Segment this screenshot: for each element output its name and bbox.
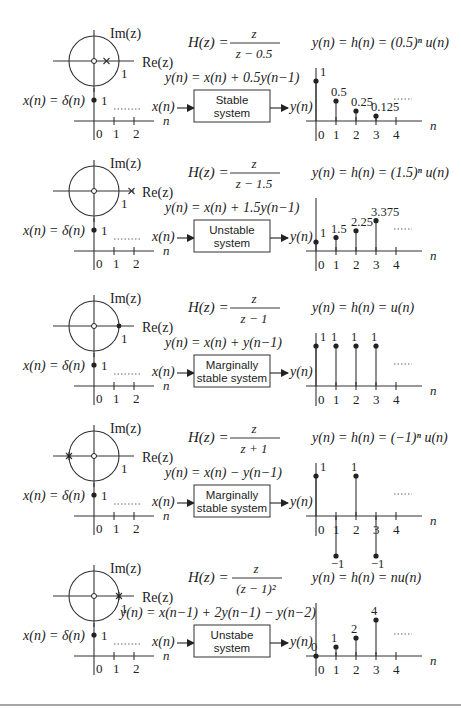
transfer-lhs: H(z) =: [187, 34, 229, 51]
pole-marker-icon: [117, 324, 122, 329]
stem-value-label: 0.5: [331, 85, 347, 99]
response-tick-label: 4: [393, 522, 400, 537]
stem-value-label: 1: [331, 330, 337, 344]
response-title: y(n) = h(n) = (1.5)ⁿ u(n): [310, 165, 449, 181]
stem-value-label: 1: [320, 226, 326, 240]
impulse-dot: [91, 632, 96, 637]
impulse-value-label: 1: [101, 358, 108, 373]
stem-dot: [353, 228, 358, 233]
transfer-numerator: z: [250, 291, 256, 306]
input-tick-label: 2: [133, 126, 140, 141]
input-impulse-plot: x(n) = δ(n)1n012: [22, 483, 170, 536]
impulse-dot: [91, 227, 96, 232]
input-impulse-plot: x(n) = δ(n)1n012: [22, 623, 170, 676]
transfer-function: H(z) =zz + 1: [187, 421, 280, 456]
im-axis-label: Im(z): [110, 561, 141, 577]
stem-value-label: 0.125: [371, 100, 399, 114]
stem-value-label: 3.375: [371, 205, 399, 219]
response-tick-label: 3: [373, 392, 380, 407]
unit-label: 1: [121, 331, 128, 346]
input-tick-label: 1: [113, 661, 120, 676]
re-axis-label: Re(z): [142, 185, 173, 201]
pole-zero-plot: Im(z)Re(z)1: [53, 156, 173, 222]
output-signal-label: y(n): [288, 364, 313, 380]
response-tick-label: 4: [393, 392, 400, 407]
stem-value-label: −1: [371, 557, 384, 571]
stem-dot: [353, 473, 358, 478]
panel-marginal-1: Im(z)Re(z)1H(z) =zz − 1y(n) = x(n) + y(n…: [22, 291, 437, 407]
response-tick-label: 2: [353, 662, 360, 677]
output-response-plot: y(n) = h(n) = (−1)ⁿ u(n)n012341−11−1: [306, 430, 448, 571]
difference-equation: y(n) = x(n) + 1.5y(n−1): [163, 200, 300, 216]
impulse-dot: [91, 97, 96, 102]
pole-marker-icon: [117, 594, 120, 597]
input-tick-label: 0: [96, 391, 103, 406]
transfer-numerator: z: [252, 561, 258, 576]
zero-marker: [92, 594, 97, 599]
input-tick-label: 1: [113, 126, 120, 141]
input-tick-label: 2: [133, 521, 140, 536]
impulse-value-label: 1: [101, 93, 108, 108]
response-tick-label: 1: [333, 662, 340, 677]
im-axis-label: Im(z): [110, 156, 141, 172]
stem-value-label: 1: [320, 65, 326, 79]
input-tick-label: 0: [96, 661, 103, 676]
transfer-lhs: H(z) =: [187, 569, 229, 586]
transfer-function: H(z) =zz − 1: [187, 291, 280, 326]
response-tick-label: 1: [333, 257, 340, 272]
response-tick-label: 4: [393, 662, 400, 677]
impulse-value-label: 1: [101, 488, 108, 503]
output-signal-label: y(n): [288, 494, 313, 510]
stem-value-label: 1: [351, 460, 357, 474]
response-tick-label: 2: [353, 522, 360, 537]
response-tick-label: 1: [333, 127, 340, 142]
stem-dot: [373, 617, 378, 622]
input-tick-label: 2: [133, 256, 140, 271]
impulse-dot: [91, 362, 96, 367]
transfer-numerator: z: [250, 26, 256, 41]
input-impulse-plot: x(n) = δ(n)1n012: [22, 88, 170, 141]
stem-value-label: 1: [351, 330, 357, 344]
input-signal-label: x(n): [151, 229, 175, 245]
transfer-lhs: H(z) =: [187, 429, 229, 446]
response-tick-label: 3: [373, 662, 380, 677]
pole-marker-icon: [67, 454, 70, 457]
response-title: y(n) = h(n) = u(n): [310, 300, 414, 316]
input-axis-label: n: [163, 113, 170, 128]
output-response-plot: y(n) = h(n) = (1.5)ⁿ u(n)n0123411.52.253…: [306, 165, 449, 272]
system-block: x(n)Marginallystable systemy(n): [151, 485, 313, 517]
stem-dot: [333, 98, 338, 103]
stem-dot: [353, 343, 358, 348]
transfer-lhs: H(z) =: [187, 299, 229, 316]
transfer-function: H(z) =zz − 1.5: [187, 156, 280, 191]
output-signal-label: y(n): [288, 229, 313, 245]
stem-value-label: −1: [331, 557, 344, 571]
panel-marginal-2: Im(z)Re(z)1H(z) =zz + 1y(n) = x(n) − y(n…: [22, 421, 448, 571]
re-axis-label: Re(z): [142, 590, 173, 606]
response-tick-label: 0: [318, 127, 325, 142]
system-block: x(n)Marginallystable systemy(n): [151, 355, 313, 387]
system-box-line1: Unstabe: [211, 629, 254, 641]
response-tick-label: 4: [393, 127, 400, 142]
response-title: y(n) = h(n) = (0.5)ⁿ u(n): [310, 35, 449, 51]
input-axis-label: n: [163, 648, 170, 663]
output-response-plot: y(n) = h(n) = (0.5)ⁿ u(n)n0123410.50.250…: [306, 35, 449, 142]
stem-value-label: 2: [351, 622, 357, 636]
stem-value-label: 1: [331, 631, 337, 645]
input-label: x(n) = δ(n): [22, 358, 85, 374]
transfer-denominator: (z − 1)²: [236, 581, 276, 596]
panel-unstable: Im(z)Re(z)1H(z) =zz − 1.5y(n) = x(n) + 1…: [22, 156, 449, 272]
input-axis-label: n: [163, 243, 170, 258]
transfer-denominator: z − 1: [240, 311, 268, 326]
impulse-value-label: 1: [101, 223, 108, 238]
response-axis-label: n: [430, 118, 437, 133]
unit-label: 1: [121, 196, 128, 211]
system-box-line1: Marginally: [206, 489, 259, 501]
input-impulse-plot: x(n) = δ(n)1n012: [22, 353, 170, 406]
transfer-function: H(z) =zz − 0.5: [187, 26, 280, 61]
input-label: x(n) = δ(n): [22, 93, 85, 109]
stem-value-label: 2.25: [351, 215, 373, 229]
transfer-lhs: H(z) =: [187, 164, 229, 181]
stem-dot: [313, 343, 318, 348]
system-box-line2: system: [214, 237, 250, 249]
